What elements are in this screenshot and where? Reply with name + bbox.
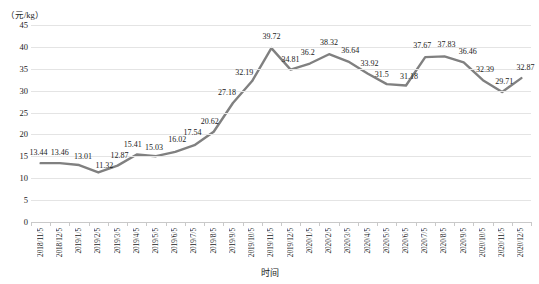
x-axis-tick-label: 2019/9/5 xyxy=(229,228,237,254)
x-axis-tick-label: 2020/11/5 xyxy=(498,228,506,257)
data-point-label: 34.81 xyxy=(282,56,300,64)
x-axis-tick-mark xyxy=(319,222,320,226)
x-axis-tick-mark xyxy=(339,222,340,226)
x-axis-tick-label: 2020/12/5 xyxy=(517,228,525,257)
gridline xyxy=(31,113,531,114)
data-point-label: 31.5 xyxy=(375,71,389,79)
x-axis-tick-label: 2018/11/5 xyxy=(37,228,45,257)
x-axis-tick-mark xyxy=(454,222,455,226)
x-axis-tick-label: 2018/12/5 xyxy=(56,228,64,257)
data-point-label: 39.72 xyxy=(262,33,280,41)
y-axis-tick-label: 20 xyxy=(2,129,28,139)
data-point-label: 27.18 xyxy=(218,89,236,97)
data-point-label: 15.41 xyxy=(124,141,142,149)
gridline xyxy=(31,91,531,92)
data-point-label: 17.54 xyxy=(183,129,201,137)
y-axis-tick-label: 15 xyxy=(2,151,28,161)
line-chart: （元/kg） 051015202530354045 2018/11/52018/… xyxy=(0,0,539,284)
x-axis-tick-mark xyxy=(300,222,301,226)
x-axis-tick-label: 2020/8/5 xyxy=(440,228,448,254)
data-point-label: 13.44 xyxy=(30,149,48,157)
data-point-label: 13.46 xyxy=(51,149,69,157)
x-axis-tick-label: 2019/12/5 xyxy=(287,228,295,257)
x-axis-tick-mark xyxy=(396,222,397,226)
x-axis-tick-mark xyxy=(127,222,128,226)
x-axis-tick-label: 2019/8/5 xyxy=(210,228,218,254)
x-axis-tick-mark xyxy=(416,222,417,226)
x-axis-tick-mark xyxy=(166,222,167,226)
y-axis-tick-label: 30 xyxy=(2,86,28,96)
x-axis-tick-mark xyxy=(262,222,263,226)
x-axis-tick-mark xyxy=(31,222,32,226)
data-point-label: 15.03 xyxy=(145,144,163,152)
x-axis-tick-mark xyxy=(89,222,90,226)
gridline xyxy=(31,25,531,26)
data-point-label: 11.32 xyxy=(95,162,113,170)
x-axis-tick-label: 2019/1/5 xyxy=(75,228,83,254)
data-point-label: 29.71 xyxy=(495,78,513,86)
x-axis-tick-mark xyxy=(108,222,109,226)
y-axis-unit-label: （元/kg） xyxy=(6,8,44,20)
data-point-label: 13.01 xyxy=(74,153,92,161)
x-axis-tick-mark xyxy=(185,222,186,226)
x-axis-tick-label: 2020/9/5 xyxy=(460,228,468,254)
gridline xyxy=(31,178,531,179)
x-axis-tick-label: 2019/5/5 xyxy=(152,228,160,254)
x-axis-tick-mark xyxy=(243,222,244,226)
gridline xyxy=(31,200,531,201)
x-axis-tick-label: 2019/4/5 xyxy=(133,228,141,254)
x-axis-tick-label: 2020/1/5 xyxy=(306,228,314,254)
gridline xyxy=(31,69,531,70)
x-axis-title: 时间 xyxy=(0,266,539,279)
x-axis-tick-mark xyxy=(358,222,359,226)
x-axis-tick-mark xyxy=(69,222,70,226)
data-point-label: 32.87 xyxy=(516,64,534,72)
x-axis-tick-mark xyxy=(512,222,513,226)
x-axis-tick-label: 2020/7/5 xyxy=(421,228,429,254)
x-axis-tick-label: 2020/4/5 xyxy=(364,228,372,254)
y-axis-tick-label: 5 xyxy=(2,195,28,205)
x-axis-tick-label: 2020/3/5 xyxy=(344,228,352,254)
x-axis-tick-label: 2020/5/5 xyxy=(383,228,391,254)
x-axis-tick-mark xyxy=(493,222,494,226)
x-axis-tick-label: 2020/10/5 xyxy=(479,228,487,257)
gridline xyxy=(31,134,531,135)
y-axis-tick-label: 45 xyxy=(2,20,28,30)
y-axis-tick-labels: 051015202530354045 xyxy=(0,25,28,222)
gridline xyxy=(31,47,531,48)
x-axis-tick-mark xyxy=(223,222,224,226)
y-axis-tick-label: 35 xyxy=(2,64,28,74)
x-axis-tick-mark xyxy=(204,222,205,226)
data-point-label: 33.92 xyxy=(361,60,379,68)
y-axis-tick-label: 10 xyxy=(2,173,28,183)
x-axis-tick-label: 2019/6/5 xyxy=(171,228,179,254)
y-axis-tick-label: 40 xyxy=(2,42,28,52)
data-point-label: 32.19 xyxy=(235,69,253,77)
x-axis-tick-label: 2019/2/5 xyxy=(94,228,102,254)
x-axis-tick-mark xyxy=(377,222,378,226)
x-axis-tick-label: 2019/3/5 xyxy=(114,228,122,254)
x-axis-tick-mark xyxy=(435,222,436,226)
x-axis-tick-label: 2019/10/5 xyxy=(248,228,256,257)
data-point-label: 37.83 xyxy=(437,41,455,49)
x-axis-tick-mark xyxy=(473,222,474,226)
data-point-label: 12.87 xyxy=(111,152,129,160)
data-point-label: 20.62 xyxy=(201,118,219,126)
gridline xyxy=(31,156,531,157)
data-point-label: 36.64 xyxy=(341,47,359,55)
x-axis-tick-label: 2019/7/5 xyxy=(190,228,198,254)
x-axis-tick-label: 2019/11/5 xyxy=(267,228,275,257)
data-point-label: 36.46 xyxy=(459,48,477,56)
data-point-label: 38.32 xyxy=(320,39,338,47)
x-axis-tick-label: 2020/6/5 xyxy=(402,228,410,254)
data-point-label: 31.18 xyxy=(400,73,418,81)
x-axis-tick-mark xyxy=(146,222,147,226)
x-axis-tick-mark xyxy=(531,222,532,226)
y-axis-tick-label: 25 xyxy=(2,108,28,118)
x-axis-tick-label: 2020/2/5 xyxy=(325,228,333,254)
x-axis-tick-mark xyxy=(281,222,282,226)
data-point-label: 32.39 xyxy=(476,66,494,74)
y-axis-tick-label: 0 xyxy=(2,217,28,227)
data-point-label: 37.67 xyxy=(413,42,431,50)
data-point-label: 36.2 xyxy=(301,49,315,57)
